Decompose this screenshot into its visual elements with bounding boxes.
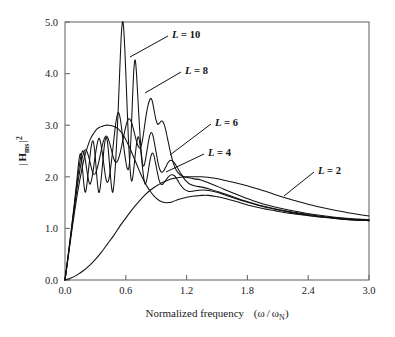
- x-axis-title-slash: /: [267, 307, 271, 319]
- curve-label-value-L8: = 8: [191, 65, 207, 76]
- x-tick-label-1.8: 1.8: [241, 285, 254, 296]
- curve-label-L2: L = 2: [317, 165, 341, 176]
- x-axis-title: Normalized frequency (ω/ωN): [145, 307, 288, 322]
- svg-text:|Hms|2: |Hms|2: [15, 136, 31, 166]
- leader-line-L6: [170, 124, 211, 155]
- curve-label-L4: L = 4: [207, 147, 232, 158]
- y-axis-title: |Hms|2: [15, 136, 31, 166]
- curve-label-variable-L6: L: [214, 117, 221, 128]
- x-axis-title-omega2: ω: [272, 307, 279, 319]
- x-tick-label-1.2: 1.2: [180, 285, 193, 296]
- curve-label-value-L6: = 6: [221, 117, 237, 128]
- x-tick-label-3.0: 3.0: [362, 285, 375, 296]
- curve-label-value-L4: = 4: [214, 147, 231, 158]
- y-axis-title-bar-open: |: [16, 163, 28, 165]
- x-axis-ticks: [65, 275, 369, 280]
- x-tick-label-0.0: 0.0: [58, 285, 71, 296]
- y-tick-label-0.0: 0.0: [45, 275, 58, 286]
- curve-label-variable-L10: L: [171, 29, 178, 40]
- curve-label-L8: L = 8: [184, 65, 208, 76]
- curve-label-L6: L = 6: [214, 117, 238, 128]
- x-axis-title-main: Normalized frequency: [145, 307, 244, 319]
- leader-line-L10: [130, 36, 168, 57]
- y-axis-title-subscript: ms: [22, 144, 31, 153]
- y-axis-tick-labels: 0.01.02.03.04.05.0: [45, 17, 58, 286]
- y-tick-label-3.0: 3.0: [45, 120, 58, 131]
- curve-label-variable-L4: L: [207, 147, 214, 158]
- curve-label-value-L2: = 2: [324, 165, 340, 176]
- y-axis-ticks: [65, 22, 70, 280]
- curve-label-value-L10: = 10: [178, 29, 200, 40]
- leader-line-L2: [284, 172, 314, 196]
- leader-line-L8: [145, 72, 181, 93]
- chart-figure: 0.00.61.21.82.43.0 0.01.02.03.04.05.0 L …: [0, 0, 395, 337]
- y-tick-label-1.0: 1.0: [45, 223, 58, 234]
- x-tick-label-0.6: 0.6: [119, 285, 132, 296]
- x-axis-title-paren-close: ): [285, 307, 289, 320]
- svg-text:Normalized frequency (: Normalized frequency (ω/ωN): [145, 307, 288, 322]
- y-tick-label-2.0: 2.0: [45, 172, 58, 183]
- x-axis-tick-labels: 0.00.61.21.82.43.0: [58, 285, 375, 296]
- curve-label-variable-L8: L: [184, 65, 191, 76]
- curve-label-variable-L2: L: [317, 165, 324, 176]
- x-axis-title-omega: ω: [258, 307, 265, 319]
- y-tick-label-4.0: 4.0: [45, 68, 58, 79]
- curve-annotations: L = 10L = 8L = 6L = 4L = 2: [130, 29, 341, 196]
- chart-svg: 0.00.61.21.82.43.0 0.01.02.03.04.05.0 L …: [0, 0, 395, 337]
- curve-label-L10: L = 10: [171, 29, 200, 40]
- y-axis-title-superscript: 2: [15, 136, 24, 140]
- y-tick-label-5.0: 5.0: [45, 17, 58, 28]
- x-tick-label-2.4: 2.4: [302, 285, 316, 296]
